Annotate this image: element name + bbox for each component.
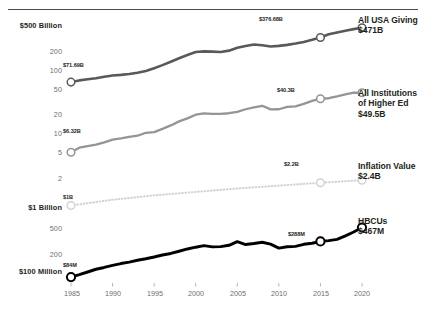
x-axis-tick-2015: 2015	[306, 290, 336, 298]
legend-value-all-usa-giving: $471B	[358, 25, 383, 35]
legend-value-all-institutions-higher-ed: $49.5B	[358, 109, 385, 119]
legend-label-hbcus: HBCUs	[358, 216, 387, 226]
series-marker-2-1	[317, 179, 325, 187]
y-axis-tick-500m: 500	[2, 225, 62, 233]
y-axis-tick-200m: 200	[2, 251, 62, 259]
legend-item-all-usa-giving[interactable]: All USA Giving $471B	[358, 15, 418, 36]
y-axis-tick-2b: 2	[2, 175, 62, 183]
legend-item-hbcus[interactable]: HBCUs $467M	[358, 216, 387, 237]
data-label-higher-ed-2015: $40.3B	[277, 87, 295, 93]
data-label-higher-ed-start: $6.32B	[63, 128, 81, 134]
series-marker-1-0	[67, 148, 75, 156]
x-axis-tick-2005: 2005	[223, 290, 253, 298]
y-axis-tick-1-billion: $1 Billion	[2, 204, 62, 212]
x-axis-tick-1985: 1985	[57, 290, 87, 298]
series-marker-3-1	[316, 237, 324, 245]
data-label-hbcu-start: $84M	[63, 262, 77, 268]
x-axis-tick-2010: 2010	[264, 290, 294, 298]
x-axis-tick-2000: 2000	[181, 290, 211, 298]
series-marker-0-0	[67, 78, 75, 86]
data-label-usa-giving-2015: $376.68B	[259, 16, 283, 22]
legend-value-inflation-value: $2.4B	[358, 171, 381, 181]
legend-value-hbcus: $467M	[358, 226, 384, 236]
y-axis-tick-200b: 200	[2, 48, 62, 56]
legend-label-of-higher-ed: of Higher Ed	[358, 98, 408, 108]
series-marker-2-0	[67, 202, 75, 210]
x-axis-tick-1995: 1995	[140, 290, 170, 298]
x-axis-tick-1990: 1990	[98, 290, 128, 298]
data-label-inflation-2015: $2.2B	[284, 161, 299, 167]
y-axis-tick-100-million: $100 Million	[2, 268, 62, 276]
series-line-3	[71, 227, 362, 277]
chart-container: $500 Billion 200 100 50 20 10 5 2 $1 Bil…	[0, 0, 426, 311]
data-label-inflation-start: $1B	[63, 194, 73, 200]
legend-item-inflation-value[interactable]: Inflation Value $2.4B	[358, 161, 416, 182]
legend-label-inflation-value: Inflation Value	[358, 161, 416, 171]
series-marker-0-1	[317, 34, 325, 42]
y-axis-tick-500-billion: $500 Billion	[2, 22, 62, 30]
data-label-hbcu-2015: $288M	[288, 231, 305, 237]
data-label-usa-giving-start: $71.69B	[63, 62, 84, 68]
legend-label-all-institutions: All Institutions	[358, 88, 417, 98]
y-axis-tick-5b: 5	[2, 149, 62, 157]
x-axis-tick-2020: 2020	[347, 290, 377, 298]
legend-label-all-usa-giving: All USA Giving	[358, 15, 418, 25]
series-marker-1-1	[317, 95, 325, 103]
y-axis-tick-20b: 20	[2, 111, 62, 119]
series-marker-3-0	[67, 273, 75, 281]
y-axis-tick-100b: 100	[2, 67, 62, 75]
y-axis-tick-50b: 50	[2, 86, 62, 94]
y-axis-tick-10b: 10	[2, 130, 62, 138]
legend-item-all-institutions-higher-ed[interactable]: All Institutions of Higher Ed $49.5B	[358, 88, 417, 119]
